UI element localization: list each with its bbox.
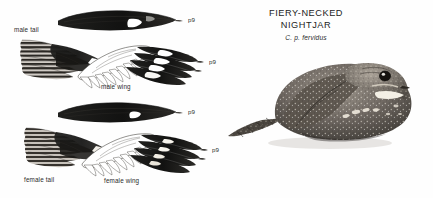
common-name-line-1: FIERY-NECKED	[226, 8, 386, 20]
common-name-line-2: NIGHTJAR	[226, 20, 386, 32]
callout-p9-male-tail: p9	[188, 16, 195, 23]
field-guide-plate: FIERY-NECKED NIGHTJAR C. p. fervidus mal…	[0, 0, 433, 198]
callout-p9-female-wing: p9	[212, 146, 219, 153]
figure-female-tail	[58, 103, 183, 123]
label-female-wing: female wing	[104, 177, 139, 184]
figure-female-wing	[82, 134, 208, 176]
species-title-block: FIERY-NECKED NIGHTJAR C. p. fervidus	[226, 8, 386, 41]
callout-p9-female-tail: p9	[188, 108, 195, 115]
label-female-tail: female tail	[24, 176, 54, 183]
figure-male-tail	[58, 11, 183, 31]
figure-male-wing	[78, 46, 204, 88]
label-male-tail: male tail	[14, 26, 39, 33]
scientific-name: C. p. fervidus	[226, 34, 386, 41]
bird-illustration	[228, 63, 412, 149]
label-male-wing: male wing	[101, 83, 131, 90]
callout-p9-male-wing: p9	[209, 58, 216, 65]
